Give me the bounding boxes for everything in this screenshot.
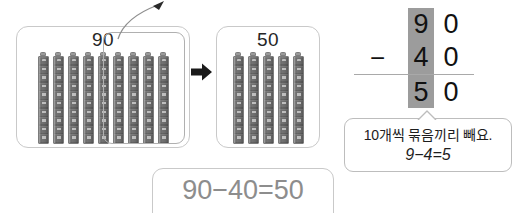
subtrahend-row: − 4 0 <box>358 41 478 74</box>
equation-box: 90−40=50 <box>152 168 334 213</box>
ten-tower <box>158 52 169 144</box>
hint-callout: 10개씩 묶음끼리 빼요. 9−4=5 <box>344 118 512 172</box>
ten-tower <box>248 52 259 144</box>
left-tower-group <box>17 52 189 146</box>
subtrahend-ones-digit: 0 <box>438 44 464 71</box>
tower-body <box>53 56 64 145</box>
tower-body <box>143 56 154 145</box>
tower-body <box>128 56 139 145</box>
tower-body <box>263 56 274 145</box>
ten-tower <box>293 52 304 144</box>
callout-line-2: 9−4=5 <box>345 146 511 164</box>
tower-body <box>83 56 94 145</box>
tower-body <box>98 56 109 145</box>
tower-body <box>293 56 304 145</box>
ten-tower <box>128 52 139 144</box>
tower-body <box>38 56 49 145</box>
ten-tower <box>233 52 244 144</box>
equation-text: 90−40=50 <box>153 175 333 206</box>
ten-tower <box>83 52 94 144</box>
ten-tower <box>38 52 49 144</box>
right-tower-group <box>217 52 319 146</box>
ten-tower <box>263 52 274 144</box>
ten-tower <box>278 52 289 144</box>
callout-tail-icon <box>417 110 437 120</box>
ten-tower <box>98 52 109 144</box>
tower-body <box>68 56 79 145</box>
tower-body <box>158 56 169 145</box>
tower-body <box>278 56 289 145</box>
left-block-box: 90 <box>16 26 190 148</box>
difference-row: 5 0 <box>358 76 478 109</box>
minuend-row: 9 0 <box>358 8 478 41</box>
vertical-subtraction: 9 0 − 4 0 5 0 <box>358 6 478 112</box>
right-box-label: 50 <box>217 29 319 51</box>
ten-tower <box>143 52 154 144</box>
difference-ones-digit: 0 <box>438 79 464 106</box>
minus-operator: − <box>370 45 385 71</box>
ten-tower <box>68 52 79 144</box>
callout-line-1: 10개씩 묶음끼리 빼요. <box>345 124 511 144</box>
minuend-tens-digit: 9 <box>408 11 434 38</box>
difference-tens-digit: 5 <box>408 79 434 106</box>
minuend-ones-digit: 0 <box>438 11 464 38</box>
tower-body <box>113 56 124 145</box>
ten-tower <box>113 52 124 144</box>
curved-up-right-arrow-icon <box>112 0 178 40</box>
right-block-box: 50 <box>216 26 320 148</box>
tower-body <box>248 56 259 145</box>
subtrahend-tens-digit: 4 <box>408 44 434 71</box>
transition-right-arrow-icon <box>191 62 213 82</box>
tower-body <box>233 56 244 145</box>
ten-tower <box>53 52 64 144</box>
